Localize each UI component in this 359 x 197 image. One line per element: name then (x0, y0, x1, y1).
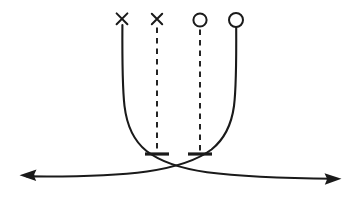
endpoint-open-right-curve (229, 13, 243, 27)
open-circle-icon (229, 13, 243, 27)
asymptote-diagram-svg: × × ○ ○ (0, 0, 359, 197)
open-circle-icon (193, 13, 206, 26)
diagram-canvas: × × ○ ○ (0, 0, 359, 197)
endpoint-open-right-dashed (193, 13, 206, 26)
